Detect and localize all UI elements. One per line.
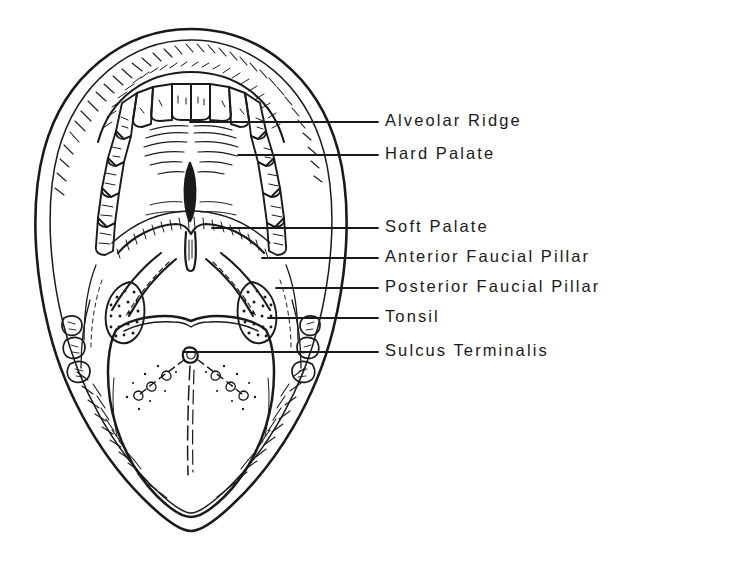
label-posterior-faucial-pillar: Posterior Faucial Pillar xyxy=(385,277,600,296)
lower-teeth-markings xyxy=(68,322,314,377)
tonsil-stipple xyxy=(110,290,273,338)
figure-canvas: Alveolar Ridge Hard Palate Soft Palate A… xyxy=(0,0,746,577)
median-raphe xyxy=(185,163,196,221)
leader-lines xyxy=(183,122,378,352)
buccal-fold-dashes xyxy=(91,280,291,348)
label-hard-palate: Hard Palate xyxy=(385,144,495,163)
tongue-dorsum-rim xyxy=(124,322,258,331)
label-soft-palate: Soft Palate xyxy=(385,217,489,236)
tongue-lateral-shading xyxy=(113,378,269,436)
anterior-faucial-pillar-right xyxy=(206,259,253,316)
lower-teeth-right xyxy=(292,316,320,382)
label-anterior-faucial-pillar: Anterior Faucial Pillar xyxy=(385,247,590,266)
anterior-faucial-pillar-left xyxy=(129,259,176,316)
uvula-shading xyxy=(189,240,192,260)
label-tonsil: Tonsil xyxy=(385,307,440,326)
median-sulcus xyxy=(188,366,190,475)
floor-of-mouth-hatching xyxy=(93,384,289,469)
label-sulcus-terminalis: Sulcus Terminalis xyxy=(385,341,549,360)
uvula xyxy=(185,232,196,271)
lower-teeth-left xyxy=(62,316,90,382)
anatomy-illustration xyxy=(0,0,746,577)
lip-hatching-lower xyxy=(77,368,305,498)
tongue-papillae-speckles xyxy=(126,365,256,410)
label-alveolar-ridge: Alveolar Ridge xyxy=(385,111,522,130)
median-sulcus-b xyxy=(193,370,194,472)
